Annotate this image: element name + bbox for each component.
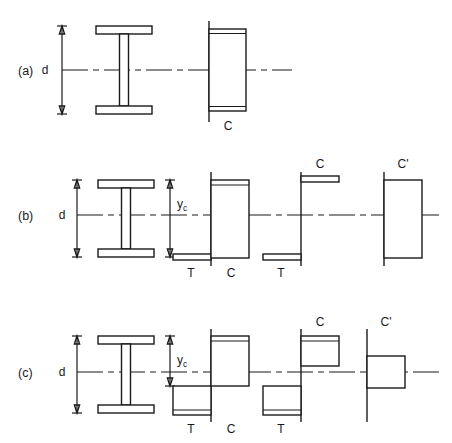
row-b: (b) d yc — [18, 157, 444, 280]
row-c-stress-block-t-c: T C — [173, 329, 249, 436]
row-c-yc-label: yc — [177, 353, 188, 369]
row-c-depth-dimension: d — [59, 336, 82, 413]
row-b-stress-block-c-prime: C' — [384, 157, 422, 266]
row-c-depth-label: d — [59, 365, 66, 379]
row-b-caption-t-2: T — [277, 266, 285, 280]
row-c-caption-c-2: C — [316, 315, 325, 329]
row-b-depth-dimension: d — [59, 180, 82, 257]
row-c-i-beam-section — [98, 336, 154, 413]
row-a-depth-label: d — [42, 63, 49, 77]
row-b-caption-c-1: C — [227, 266, 236, 280]
row-a-caption-c: C — [224, 119, 233, 133]
row-b-depth-label: d — [59, 208, 66, 222]
row-b-caption-c-prime: C' — [398, 157, 409, 171]
row-c-caption-c-1: C — [227, 422, 236, 436]
row-c-yc-dimension: yc — [165, 336, 188, 386]
row-b-i-beam-section — [98, 180, 154, 257]
row-b-stress-block-t-c: T C — [173, 172, 249, 280]
row-c: (c) d yc — [18, 315, 444, 436]
row-c-caption-c-prime: C' — [381, 315, 392, 329]
row-b-caption-c-2: C — [316, 157, 325, 171]
row-c-caption-t-1: T — [187, 422, 195, 436]
row-b-yc-dimension: yc — [165, 180, 188, 257]
row-b-label: (b) — [18, 209, 33, 223]
row-b-caption-t-1: T — [187, 266, 195, 280]
row-c-label: (c) — [18, 366, 33, 380]
row-a-label: (a) — [18, 64, 33, 78]
beam-stress-block-diagram: (a) d C (b) — [0, 0, 452, 443]
figure-container: (a) d C (b) — [0, 0, 452, 443]
row-b-stress-block-couple: C T — [263, 157, 339, 280]
row-c-stress-block-couple: C T — [263, 315, 339, 436]
row-c-caption-t-2: T — [277, 422, 285, 436]
row-b-yc-label: yc — [177, 197, 188, 213]
row-a-stress-block-compression: C — [209, 21, 246, 133]
row-c-stress-block-c-prime: C' — [367, 315, 405, 422]
row-a: (a) d C — [18, 21, 292, 133]
